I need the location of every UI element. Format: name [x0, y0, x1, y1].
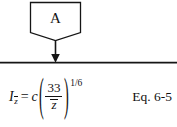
pentagon-node-label: A — [50, 10, 61, 26]
equation-lhs-symbol: I — [9, 89, 14, 105]
flow-diagram: A — [0, 0, 177, 66]
arrow-head-icon — [51, 54, 60, 63]
equation-lhs-subscript: z — [14, 95, 18, 106]
equation-equals-sign: = — [21, 89, 29, 105]
equation-fraction: 33 z — [45, 81, 62, 112]
equation-number-label: Eq. 6-5 — [132, 66, 172, 127]
paren-close: ) — [64, 70, 69, 124]
equation-exponent: 1/6 — [70, 78, 82, 88]
fraction-denominator: z — [49, 98, 58, 112]
equation-expression: Iz = c ( 33 z ) 1/6 — [9, 66, 82, 127]
fraction-numerator: 33 — [45, 81, 62, 95]
diagram-area: A — [0, 0, 177, 66]
paren-open: ( — [39, 70, 44, 124]
equation-coefficient: c — [32, 89, 38, 105]
equation-area: Iz = c ( 33 z ) 1/6 Eq. 6-5 — [0, 66, 177, 127]
